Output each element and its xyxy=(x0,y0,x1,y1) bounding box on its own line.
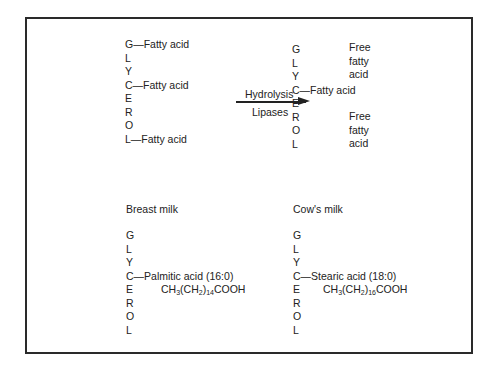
glycerol-letter: O xyxy=(126,310,233,324)
glycerol-letter: C—Stearic acid (18:0) xyxy=(293,270,396,284)
glycerol-letter: Y xyxy=(293,256,396,270)
hydrolysis-label: Hydrolysis xyxy=(245,88,293,100)
glycerol-letter: R xyxy=(126,297,233,311)
free-text: Free xyxy=(349,110,371,124)
free-fatty-acid-label-1: Free fatty acid xyxy=(349,41,371,82)
glycerol-letter: L xyxy=(292,57,356,71)
glycerol-letter: O xyxy=(293,310,396,324)
glycerol-letter: L xyxy=(126,324,233,338)
glycerol-letter: R xyxy=(125,106,189,120)
glycerol-letter: Y xyxy=(125,65,189,79)
glycerol-letter: E xyxy=(292,97,356,111)
glycerol-letter: C—Fatty acid xyxy=(292,84,356,98)
glycerol-letter: L xyxy=(293,324,396,338)
glycerol-letter: G xyxy=(126,229,233,243)
stearic-formula: CH3(CH2)16COOH xyxy=(323,283,407,295)
glycerol-letter: Y xyxy=(292,70,356,84)
lipases-label: Lipases xyxy=(252,106,288,118)
glycerol-letter: R xyxy=(293,297,396,311)
fatty-text: fatty xyxy=(349,55,371,69)
cows-milk-title: Cow's milk xyxy=(293,203,343,215)
glycerol-letter: O xyxy=(125,119,189,133)
glycerol-letter: G—Fatty acid xyxy=(125,38,189,52)
glycerol-letter: C—Fatty acid xyxy=(125,79,189,93)
diagram-frame xyxy=(25,17,473,354)
glycerol-letter: G xyxy=(293,229,396,243)
glycerol-letter: L xyxy=(292,138,356,152)
glycerol-letter: Y xyxy=(126,256,233,270)
glycerol-letter: R xyxy=(292,111,356,125)
fatty-text: fatty xyxy=(349,124,371,138)
free-fatty-acid-label-2: Free fatty acid xyxy=(349,110,371,151)
palmitic-formula: CH3(CH2)14COOH xyxy=(161,283,245,295)
acid-text: acid xyxy=(349,68,371,82)
glycerol-letter: L xyxy=(293,243,396,257)
glycerol-letter: E xyxy=(125,92,189,106)
glycerol-letter: L—Fatty acid xyxy=(125,133,189,147)
monoglyceride-glycerol-column: G L Y C—Fatty acid E R O L xyxy=(292,43,356,151)
glycerol-letter: L xyxy=(125,52,189,66)
acid-text: acid xyxy=(349,137,371,151)
glycerol-letter: L xyxy=(126,243,233,257)
free-text: Free xyxy=(349,41,371,55)
glycerol-letter: C—Palmitic acid (16:0) xyxy=(126,270,233,284)
breast-milk-title: Breast milk xyxy=(126,203,178,215)
triglyceride-glycerol-column: G—Fatty acid L Y C—Fatty acid E R O L—Fa… xyxy=(125,38,189,146)
glycerol-letter: O xyxy=(292,124,356,138)
glycerol-letter: G xyxy=(292,43,356,57)
